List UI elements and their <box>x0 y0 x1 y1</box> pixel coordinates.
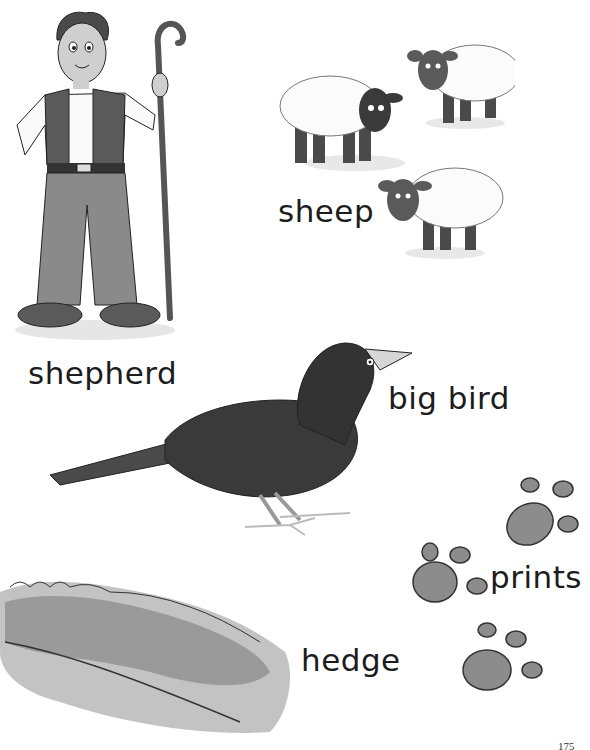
hedge-illustration <box>0 572 295 742</box>
bird-illustration <box>50 335 420 545</box>
shepherd-illustration <box>5 5 195 345</box>
label-hedge: hedge <box>301 645 401 676</box>
label-big-bird: big bird <box>388 383 510 414</box>
label-prints: prints <box>490 562 582 593</box>
label-sheep: sheep <box>278 196 374 227</box>
sheep-illustration <box>275 38 515 263</box>
page-number: 175 <box>558 740 575 750</box>
